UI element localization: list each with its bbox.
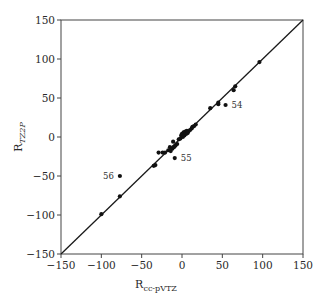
data-point bbox=[171, 140, 175, 144]
data-point bbox=[153, 163, 157, 167]
scatter-chart: 565554 −150−100−50050100150 −150−100−500… bbox=[0, 0, 327, 304]
y-tick-label: 150 bbox=[35, 14, 55, 26]
point-label-56: 56 bbox=[103, 171, 114, 181]
y-tick-label: −50 bbox=[33, 170, 55, 182]
x-axis-ticks: −150−100−50050100150 bbox=[47, 254, 313, 271]
y-tick-label: 50 bbox=[42, 92, 55, 104]
y-tick-label: −150 bbox=[26, 248, 55, 260]
data-point bbox=[118, 194, 122, 198]
data-point bbox=[223, 103, 227, 107]
data-point bbox=[208, 106, 212, 110]
x-tick-label: 100 bbox=[253, 259, 273, 271]
data-point bbox=[173, 156, 177, 160]
data-point bbox=[157, 151, 161, 155]
point-label-54: 54 bbox=[232, 100, 243, 110]
y-tick-label: 100 bbox=[35, 53, 55, 65]
data-point bbox=[257, 60, 261, 64]
x-tick-label: −150 bbox=[47, 259, 76, 271]
x-tick-label: 0 bbox=[179, 259, 186, 271]
data-point bbox=[194, 122, 198, 126]
y-tick-label: −100 bbox=[26, 209, 55, 221]
x-tick-label: 150 bbox=[293, 259, 313, 271]
data-point bbox=[175, 142, 179, 146]
data-point bbox=[118, 174, 122, 178]
data-point bbox=[99, 212, 103, 216]
x-axis-label: Rcc-pVTZ bbox=[135, 278, 177, 293]
x-tick-label: −100 bbox=[87, 259, 116, 271]
data-point bbox=[216, 101, 220, 105]
data-point bbox=[233, 84, 237, 88]
point-label-55: 55 bbox=[181, 153, 192, 163]
y-tick-label: 0 bbox=[48, 131, 55, 143]
data-point bbox=[232, 88, 236, 92]
x-tick-label: 50 bbox=[216, 259, 229, 271]
y-axis-ticks: −150−100−50050100150 bbox=[26, 14, 61, 260]
x-tick-label: −50 bbox=[131, 259, 153, 271]
y-axis-label: RTZ2P bbox=[12, 122, 27, 152]
